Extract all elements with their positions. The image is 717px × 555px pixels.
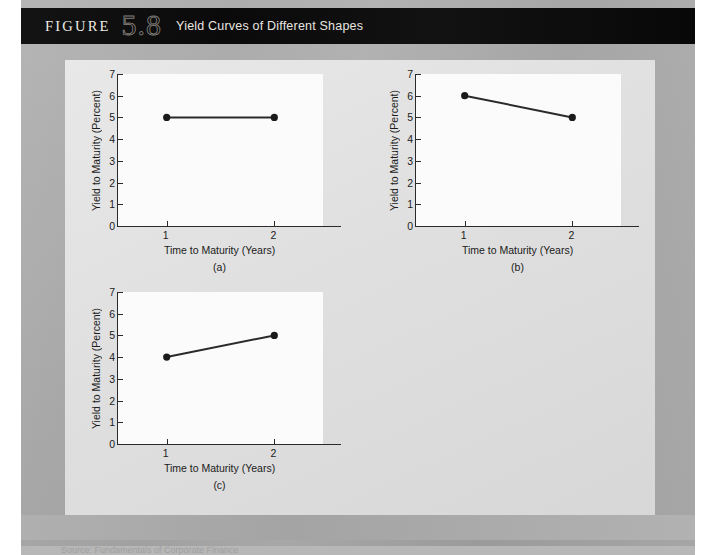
figure-content-panel: Yield to Maturity (Percent) 0 1 2 3 4 5 …: [65, 60, 655, 515]
chart-c-x-tick-labels: 1 2: [117, 445, 322, 461]
y-tick-4: 4: [109, 352, 115, 363]
y-tick-3: 3: [407, 156, 413, 167]
y-tick-3: 3: [109, 156, 115, 167]
chart-b-y-tick-labels: 0 1 2 3 4 5 6 7: [401, 74, 415, 227]
y-tick-4: 4: [407, 134, 413, 145]
chart-c-y-tick-labels: 0 1 2 3 4 5 6 7: [103, 292, 117, 445]
chart-c-y-axis-label: Yield to Maturity (Percent): [88, 292, 103, 445]
y-tick-6: 6: [407, 90, 413, 101]
y-tick-1: 1: [109, 417, 115, 428]
y-tick-7: 7: [109, 69, 115, 80]
chart-a-plot-area: [117, 74, 323, 227]
x-tick-2: 2: [270, 230, 276, 241]
chart-a-series: [118, 74, 323, 226]
y-tick-1: 1: [109, 199, 115, 210]
y-tick-5: 5: [109, 112, 115, 123]
figure-word-label: FIGURE: [45, 18, 111, 35]
chart-c-plot-area: [117, 292, 323, 445]
y-tick-2: 2: [407, 177, 413, 188]
y-tick-2: 2: [109, 395, 115, 406]
y-tick-5: 5: [109, 330, 115, 341]
y-tick-1: 1: [407, 199, 413, 210]
chart-c-series: [118, 292, 323, 444]
chart-panel-b: Yield to Maturity (Percent) 0 1 2 3 4 5 …: [386, 74, 621, 273]
x-axis-extension: [323, 226, 341, 227]
y-tick-7: 7: [109, 287, 115, 298]
x-tick-1: 1: [461, 230, 467, 241]
chart-a-x-tick-labels: 1 2: [117, 227, 322, 243]
y-tick-6: 6: [109, 308, 115, 319]
figure-source-caption: Source: Fundamentals of Corporate Financ…: [61, 546, 239, 555]
y-tick-7: 7: [407, 69, 413, 80]
chart-c-plot-row: Yield to Maturity (Percent) 0 1 2 3 4 5 …: [88, 292, 323, 445]
y-tick-3: 3: [109, 374, 115, 385]
chart-c-panel-label: (c): [117, 479, 322, 491]
y-tick-6: 6: [109, 90, 115, 101]
chart-a-panel-label: (a): [117, 261, 322, 273]
y-tick-0: 0: [109, 221, 115, 232]
chart-panel-c: Yield to Maturity (Percent) 0 1 2 3 4 5 …: [88, 292, 323, 491]
figure-header-inner: FIGURE 5.8 Yield Curves of Different Sha…: [45, 8, 363, 44]
figure-bottom-band: [21, 515, 695, 540]
chart-b-panel-label: (b): [415, 261, 620, 273]
x-axis-extension: [621, 226, 639, 227]
chart-b-x-axis-label: Time to Maturity (Years): [415, 244, 620, 256]
y-tick-0: 0: [407, 221, 413, 232]
chart-panel-a: Yield to Maturity (Percent) 0 1 2 3 4 5 …: [88, 74, 323, 273]
figure-title: Yield Curves of Different Shapes: [176, 19, 363, 33]
x-axis-extension: [323, 444, 341, 445]
x-tick-1: 1: [163, 448, 169, 459]
x-tick-1: 1: [163, 230, 169, 241]
chart-a-plot-row: Yield to Maturity (Percent) 0 1 2 3 4 5 …: [88, 74, 323, 227]
y-tick-2: 2: [109, 177, 115, 188]
x-tick-2: 2: [270, 448, 276, 459]
y-tick-0: 0: [109, 439, 115, 450]
chart-b-x-tick-labels: 1 2: [415, 227, 620, 243]
chart-b-y-axis-label: Yield to Maturity (Percent): [386, 74, 401, 227]
x-tick-2: 2: [568, 230, 574, 241]
y-tick-5: 5: [407, 112, 413, 123]
chart-b-series: [416, 74, 621, 226]
figure-page: FIGURE 5.8 Yield Curves of Different Sha…: [0, 0, 717, 555]
chart-b-plot-area: [415, 74, 621, 227]
chart-a-y-tick-labels: 0 1 2 3 4 5 6 7: [103, 74, 117, 227]
figure-caption-strip: Source: Fundamentals of Corporate Financ…: [21, 546, 695, 555]
chart-a-x-axis-label: Time to Maturity (Years): [117, 244, 322, 256]
chart-b-plot-row: Yield to Maturity (Percent) 0 1 2 3 4 5 …: [386, 74, 621, 227]
figure-number-label: 5.8: [122, 10, 163, 40]
figure-header-bar: FIGURE 5.8 Yield Curves of Different Sha…: [21, 8, 695, 44]
chart-a-y-axis-label: Yield to Maturity (Percent): [88, 74, 103, 227]
chart-c-x-axis-label: Time to Maturity (Years): [117, 462, 322, 474]
y-tick-4: 4: [109, 134, 115, 145]
